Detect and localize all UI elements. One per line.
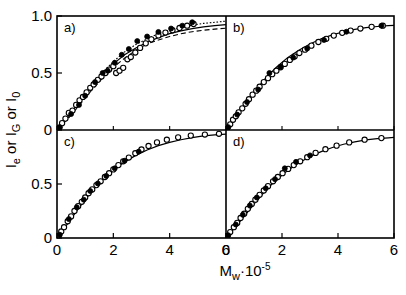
data-point-filled-circle [256,87,261,92]
data-point-filled-circle [156,29,161,34]
data-point-open-circle [146,143,151,148]
data-point-filled-circle [308,153,313,158]
data-point-filled-circle [112,166,117,171]
data-point-filled-circle [57,232,62,237]
x-tick-label: 2 [109,241,117,258]
data-point-filled-circle [267,71,272,76]
y-tick-label: 1.0 [31,7,52,24]
data-point-open-circle [323,147,328,152]
data-point-filled-circle [145,34,150,39]
data-point-filled-circle [291,55,296,60]
panel-label: c) [64,134,75,149]
data-point-filled-circle [112,60,117,65]
x-tick-label: 4 [165,241,173,258]
data-point-filled-circle [126,47,131,52]
data-point-filled-circle [76,102,81,107]
data-point-open-circle [128,54,133,59]
data-point-open-circle [369,24,374,29]
data-point-filled-circle [122,158,127,163]
x-tick-label: 6 [390,241,398,258]
data-point-filled-circle [235,112,240,117]
data-point-filled-circle [135,39,140,44]
data-point-filled-circle [344,29,349,34]
data-point-filled-circle [105,68,110,73]
data-point-open-circle [261,80,266,85]
data-point-open-circle [61,225,66,230]
multi-panel-plot: a)b)c)d)024602461.00.500.50Ie or IG or I… [0,0,406,295]
data-point-filled-circle [88,189,93,194]
data-point-filled-circle [322,37,327,42]
data-point-filled-circle [247,203,252,208]
data-point-open-circle [362,137,367,142]
data-point-filled-circle [305,46,310,51]
data-point-open-circle [163,30,168,35]
y-tick-label: 0 [44,121,52,138]
data-point-open-circle [137,45,142,50]
data-point-filled-circle [83,93,88,98]
data-point-filled-circle [240,212,245,217]
data-point-open-circle [202,132,207,137]
data-point-filled-circle [379,23,384,28]
panel-label: a) [64,20,76,35]
x-tick-label: 2 [278,241,286,258]
data-point-filled-circle [69,112,74,117]
data-point-filled-circle [278,64,283,69]
panel-label: d) [233,134,245,149]
data-point-open-circle [316,39,321,44]
data-point-open-circle [313,150,318,155]
data-point-open-circle [347,140,352,145]
data-point-open-circle [379,136,384,141]
data-point-filled-circle [136,149,141,154]
data-point-filled-circle [119,52,124,57]
data-point-open-circle [331,33,336,38]
data-point-filled-circle [81,197,86,202]
data-point-filled-circle [282,166,287,171]
data-point-open-circle [121,65,126,70]
data-point-open-circle [154,140,159,145]
x-tick-label: 4 [334,241,342,258]
panel-label: b) [233,20,245,35]
y-tick-label: 0.5 [31,175,52,192]
data-point-filled-circle [254,195,259,200]
data-point-filled-circle [95,181,100,186]
data-point-filled-circle [263,186,268,191]
data-point-filled-circle [66,217,71,222]
data-point-filled-circle [190,20,195,25]
data-point-filled-circle [100,71,105,76]
data-point-open-circle [358,26,363,31]
data-point-open-circle [63,116,68,121]
data-point-open-circle [334,143,339,148]
data-point-open-circle [133,50,138,55]
data-point-filled-circle [180,23,185,28]
data-point-open-circle [265,76,270,81]
data-point-open-circle [216,131,221,136]
data-point-open-circle [143,41,148,46]
data-point-filled-circle [57,125,62,130]
data-point-filled-circle [93,80,98,85]
x-tick-label: 0 [222,241,230,258]
data-point-open-circle [188,133,193,138]
data-point-filled-circle [169,26,174,31]
data-point-filled-circle [74,205,79,210]
data-point-open-circle [185,23,190,28]
data-point-open-circle [176,135,181,140]
y-tick-label: 0 [44,229,52,246]
data-point-open-circle [297,50,302,55]
data-point-filled-circle [233,222,238,227]
data-point-filled-circle [273,177,278,182]
data-point-filled-circle [245,100,250,105]
data-point-filled-circle [104,173,109,178]
data-point-filled-circle [294,159,299,164]
x-tick-label: 0 [53,241,61,258]
y-tick-label: 0.5 [31,64,52,81]
figure-container: a)b)c)d)024602461.00.500.50Ie or IG or I… [0,0,406,295]
data-point-open-circle [280,171,285,176]
data-point-open-circle [164,137,169,142]
